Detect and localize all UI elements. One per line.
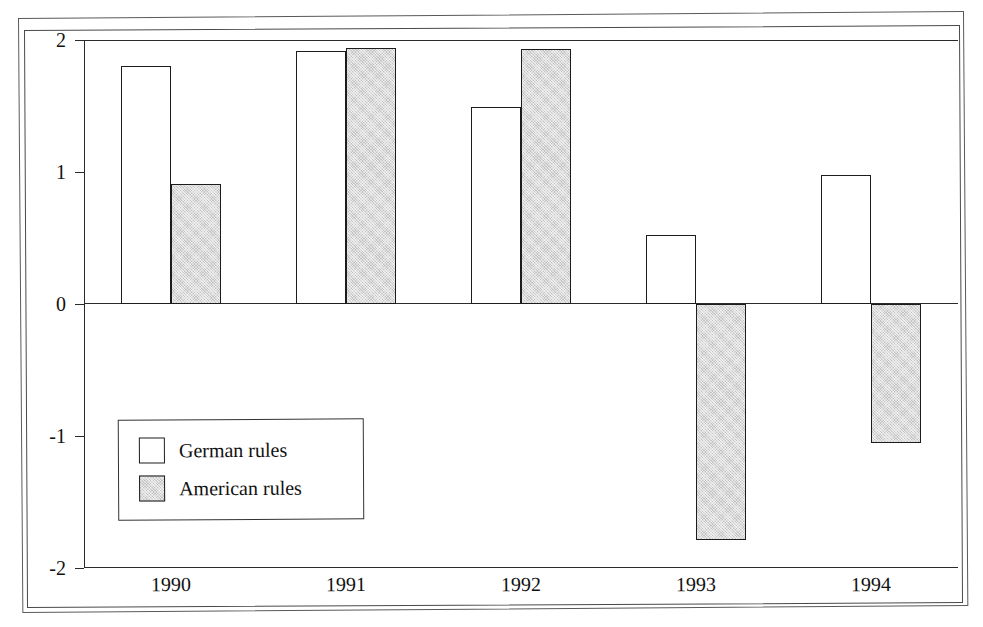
y-tick-label: -2 [49,558,66,578]
x-tick-label-1993: 1993 [676,574,716,594]
y-tick-label: -1 [49,426,66,446]
y-tick-neg2: -2 [75,568,84,569]
bar-1990-german-rules [121,66,171,304]
y-tick-2: 2 [75,40,84,41]
legend-item-german-rules: German rules [139,437,287,464]
legend-label-american-rules: American rules [179,478,302,499]
x-tick-label-1991: 1991 [326,574,366,594]
legend-swatch-american-rules-icon [139,475,165,501]
x-tick-label-1990: 1990 [151,574,191,594]
bar-1991-german-rules [296,51,346,304]
y-tick-label: 2 [56,30,66,50]
bar-1992-american-rules [521,49,571,304]
bar-1994-german-rules [821,175,871,304]
bar-1993-american-rules [696,304,746,540]
bar-1994-american-rules [871,304,921,443]
bar-1992-german-rules [471,107,521,304]
y-tick-label: 1 [56,162,66,182]
y-tick-label: 0 [56,294,66,314]
x-axis-labels: 19901991199219931994 [84,568,958,612]
y-tick-0: 0 [75,304,84,305]
legend-item-american-rules: American rules [139,475,302,502]
chart-legend: German rules American rules [118,418,365,520]
bar-1991-american-rules [346,48,396,304]
x-tick-label-1994: 1994 [851,574,891,594]
y-tick-1: 1 [75,172,84,173]
legend-swatch-german-rules-icon [139,437,165,463]
bar-chart-figure: 210-1-2 19901991199219931994 German rule… [0,0,983,627]
bar-1993-german-rules [646,235,696,304]
y-tick-neg1: -1 [75,436,84,437]
x-tick-label-1992: 1992 [501,574,541,594]
legend-label-german-rules: German rules [179,440,287,461]
bar-1990-american-rules [171,184,221,304]
